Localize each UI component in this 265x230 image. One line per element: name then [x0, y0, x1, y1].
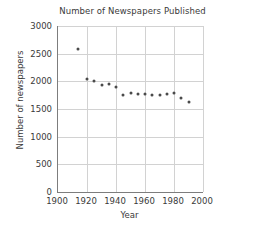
data-point — [151, 93, 154, 96]
gridline-horizontal — [58, 81, 203, 82]
y-tick-label: 1500 — [20, 104, 52, 114]
data-point — [158, 93, 161, 96]
x-axis-tick-labels: 190019201940196019802000 — [57, 196, 202, 210]
gridline-vertical — [116, 26, 117, 192]
y-tick-label: 2500 — [20, 49, 52, 59]
data-point — [129, 91, 132, 94]
gridline-horizontal — [58, 26, 203, 27]
gridline-horizontal — [58, 164, 203, 165]
gridline-vertical — [203, 26, 204, 192]
gridline-horizontal — [58, 137, 203, 138]
x-tick-label: 2000 — [182, 196, 222, 206]
gridline-vertical — [145, 26, 146, 192]
chart-figure: Number of Newspapers Published Number of… — [0, 0, 265, 230]
data-point — [122, 93, 125, 96]
gridline-horizontal — [58, 109, 203, 110]
gridline-vertical — [87, 26, 88, 192]
data-point — [93, 79, 96, 82]
gridline-vertical — [174, 26, 175, 192]
y-axis-tick-labels: 050010001500200025003000 — [18, 26, 52, 192]
y-tick-label: 500 — [20, 159, 52, 169]
chart-title: Number of Newspapers Published — [0, 6, 265, 16]
data-point — [100, 83, 103, 86]
gridline-horizontal — [58, 54, 203, 55]
data-point — [86, 77, 89, 80]
plot-area — [57, 26, 203, 193]
y-tick-label: 1000 — [20, 132, 52, 142]
data-point — [165, 93, 168, 96]
data-point — [173, 91, 176, 94]
data-point — [144, 93, 147, 96]
data-point — [136, 93, 139, 96]
y-tick-label: 3000 — [20, 21, 52, 31]
x-axis-label: Year — [57, 210, 202, 220]
data-point — [180, 97, 183, 100]
data-point — [115, 85, 118, 88]
y-tick-label: 2000 — [20, 76, 52, 86]
data-point — [187, 100, 190, 103]
data-point — [107, 82, 110, 85]
data-point — [77, 48, 80, 51]
